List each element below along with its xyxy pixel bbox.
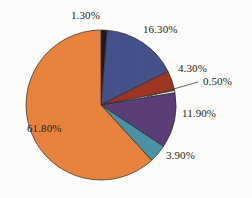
pie-label-slice-1: 1.30% xyxy=(71,10,100,21)
pie-chart-figure: 1.30%16.30%4.30%0.50%11.90%3.90%61.80% xyxy=(0,0,252,198)
pie-label-slice-3: 4.30% xyxy=(178,63,207,74)
pie-label-slice-7: 61.80% xyxy=(27,123,62,134)
pie-slice-group xyxy=(26,30,176,180)
pie-label-slice-6: 3.90% xyxy=(166,150,195,161)
pie-chart-svg xyxy=(0,0,252,198)
pie-label-slice-5: 11.90% xyxy=(182,108,216,119)
pie-label-slice-2: 16.30% xyxy=(143,24,178,35)
pie-label-slice-4: 0.50% xyxy=(203,76,232,87)
